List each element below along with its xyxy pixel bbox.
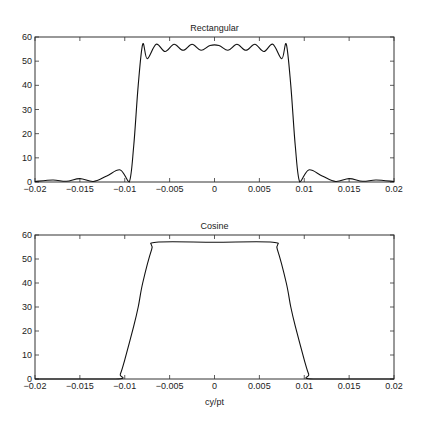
x-tick-label: 0.005 [248,184,271,194]
x-tick-label: 0.02 [385,184,403,194]
y-tick-label: 50 [22,254,32,264]
cosine-curve [35,242,394,379]
x-tick-label: −0.005 [156,184,184,194]
y-tick-label: 60 [22,32,32,42]
x-tick-label: 0.015 [338,184,361,194]
x-tick-label: 0.015 [338,381,361,391]
y-tick-label: 20 [22,129,32,139]
x-tick-label: 0 [212,381,217,391]
x-tick-label: 0 [212,184,217,194]
figure: Rectangular −0.02−0.015−0.01−0.00500.005… [0,0,424,424]
x-tick-label: −0.015 [66,184,94,194]
rectangular-title: Rectangular [190,23,239,33]
rectangular-ticks: −0.02−0.015−0.01−0.00500.0050.010.0150.0… [22,32,403,194]
cosine-xlabel: cy/pt [205,397,225,407]
y-tick-label: 0 [27,374,32,384]
x-tick-label: 0.01 [295,184,313,194]
y-tick-label: 20 [22,326,32,336]
y-tick-label: 10 [22,153,32,163]
x-tick-label: −0.005 [156,381,184,391]
x-tick-label: −0.01 [113,381,136,391]
rectangular-axes-box [35,37,394,182]
y-tick-label: 30 [22,105,32,115]
rectangular-plot: Rectangular −0.02−0.015−0.01−0.00500.005… [22,23,403,194]
y-tick-label: 40 [22,278,32,288]
y-tick-label: 30 [22,302,32,312]
y-tick-label: 10 [22,350,32,360]
y-tick-label: 0 [27,177,32,187]
x-tick-label: −0.015 [66,381,94,391]
rectangular-curve [35,44,394,182]
y-tick-label: 50 [22,56,32,66]
x-tick-label: 0.01 [295,381,313,391]
cosine-plot: Cosine −0.02−0.015−0.01−0.00500.0050.010… [22,221,403,407]
x-tick-label: 0.005 [248,381,271,391]
cosine-title: Cosine [200,221,228,231]
y-tick-label: 40 [22,80,32,90]
cosine-ticks: −0.02−0.015−0.01−0.00500.0050.010.0150.0… [22,230,403,391]
y-tick-label: 60 [22,230,32,240]
x-tick-label: −0.01 [113,184,136,194]
cosine-axes-box [35,235,394,379]
x-tick-label: 0.02 [385,381,403,391]
